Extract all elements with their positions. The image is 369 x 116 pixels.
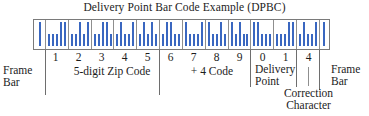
short-bar: [52, 34, 54, 46]
delivery-point-label-line1: Delivery: [255, 63, 295, 75]
digit-section-4: [113, 20, 136, 49]
digit-row-right-spacer: [320, 51, 330, 63]
digit-label-3: 3: [90, 51, 113, 63]
short-bar: [197, 34, 199, 46]
tall-bar: [323, 22, 325, 46]
short-bar: [276, 34, 278, 46]
frame-bar-left-label-line2: Bar: [3, 76, 32, 88]
short-bar: [98, 34, 100, 46]
digit-section-8: [205, 20, 228, 49]
dpbc-diagram: Delivery Point Bar Code Example (DPBC) 1…: [0, 0, 369, 116]
short-bar: [56, 34, 58, 46]
frame-bar-right-section: [319, 20, 329, 49]
short-bar: [124, 34, 126, 46]
digit-label-10: 0: [251, 51, 274, 63]
digit-section-1: [45, 20, 68, 49]
frame-bar-right-label: Frame Bar: [331, 63, 360, 87]
frame-bar-right-label-line1: Frame: [331, 63, 360, 75]
tall-bar: [288, 22, 290, 46]
tall-bar: [231, 22, 233, 46]
short-bar: [71, 34, 73, 46]
short-bar: [147, 34, 149, 46]
short-bar: [235, 34, 237, 46]
short-bar: [265, 34, 267, 46]
short-bar: [216, 34, 218, 46]
digit-section-9: [228, 20, 251, 49]
figure-title: Delivery Point Bar Code Example (DPBC): [0, 1, 369, 13]
tall-bar: [303, 22, 305, 46]
short-bar: [110, 34, 112, 46]
barcode-box: [33, 19, 330, 50]
tall-bar: [239, 22, 241, 46]
digit-section-10: [250, 20, 273, 49]
digit-label-4: 4: [113, 51, 136, 63]
delivery-point-label-line2: Point: [255, 75, 295, 87]
short-bar: [246, 34, 248, 46]
short-bar: [311, 34, 313, 46]
tall-bar: [64, 22, 66, 46]
short-bar: [284, 34, 286, 46]
frame-bar-left-label: Frame Bar: [3, 64, 32, 88]
short-bar: [83, 34, 85, 46]
short-bar: [116, 34, 118, 46]
short-bar: [155, 34, 157, 46]
frame-bar-left-section: [34, 20, 45, 49]
digit-label-2: 2: [67, 51, 90, 63]
frame-bar-right-label-line2: Bar: [331, 75, 360, 87]
correction-character-label-line1: Correction: [277, 87, 340, 99]
tall-bar: [39, 22, 41, 46]
separator-correction-frame: [319, 50, 320, 90]
short-bar: [280, 34, 282, 46]
tall-bar: [79, 22, 81, 46]
short-bar: [48, 34, 50, 46]
digit-row-left-spacer: [33, 51, 44, 63]
short-bar: [307, 34, 309, 46]
frame-bar-left-label-line1: Frame: [3, 64, 32, 76]
short-bar: [189, 34, 191, 46]
short-bar: [193, 34, 195, 46]
digit-label-1: 1: [44, 51, 67, 63]
digit-section-12: [296, 20, 319, 49]
short-bar: [212, 34, 214, 46]
tall-bar: [220, 22, 222, 46]
digit-row: 123456789014: [33, 51, 330, 63]
digit-label-6: 6: [159, 51, 182, 63]
tall-bar: [185, 22, 187, 46]
short-bar: [224, 34, 226, 46]
separator-frame-left: [45, 50, 46, 95]
digit-label-8: 8: [205, 51, 228, 63]
digit-label-9: 9: [228, 51, 251, 63]
tall-bar: [208, 22, 210, 46]
tall-bar: [120, 22, 122, 46]
short-bar: [261, 34, 263, 46]
separator-delivery-correction: [296, 50, 297, 87]
plus4-code-label: + 4 Code: [166, 65, 258, 77]
digit-label-7: 7: [182, 51, 205, 63]
zip-code-label: 5-digit Zip Code: [55, 65, 169, 77]
short-bar: [139, 34, 141, 46]
tall-bar: [166, 22, 168, 46]
short-bar: [178, 34, 180, 46]
short-bar: [94, 34, 96, 46]
tall-bar: [315, 22, 317, 46]
tall-bar: [132, 22, 134, 46]
tall-bar: [253, 22, 255, 46]
tall-bar: [292, 22, 294, 46]
tall-bar: [257, 22, 259, 46]
delivery-point-label: Delivery Point: [255, 63, 295, 87]
tall-bar: [201, 22, 203, 46]
short-bar: [269, 34, 271, 46]
tall-bar: [87, 22, 89, 46]
short-bar: [243, 34, 245, 46]
digit-section-2: [68, 20, 91, 49]
correction-character-label: Correction Character: [277, 87, 340, 111]
digit-label-11: 1: [274, 51, 297, 63]
digit-section-6: [159, 20, 182, 49]
short-bar: [162, 34, 164, 46]
short-bar: [128, 34, 130, 46]
short-bar: [75, 34, 77, 46]
tall-bar: [170, 22, 172, 46]
tall-bar: [151, 22, 153, 46]
short-bar: [174, 34, 176, 46]
tall-bar: [60, 22, 62, 46]
